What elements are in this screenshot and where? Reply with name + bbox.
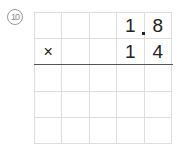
answer-cell[interactable] [35,65,62,91]
grid-cell[interactable] [90,13,117,39]
answer-cell[interactable] [62,65,89,91]
multiplication-grid: 1 8 × 1 4 [34,12,172,144]
answer-cell[interactable] [62,92,89,118]
decimal-point [142,32,145,35]
answer-cell[interactable] [90,92,117,118]
answer-cell[interactable] [145,65,172,91]
grid-cell[interactable] [35,13,62,39]
answer-cell[interactable] [117,65,144,91]
multiplicand-digit: 1 [117,13,144,39]
multiplier-digit: 1 [117,39,144,65]
grid-cell[interactable] [62,39,89,65]
multiply-sign: × [35,39,62,65]
grid-cell[interactable] [62,13,89,39]
answer-cell[interactable] [145,118,172,144]
answer-cell[interactable] [90,118,117,144]
multiplicand-digit: 8 [145,13,172,39]
answer-cell[interactable] [90,65,117,91]
sum-line [34,64,173,65]
answer-cell[interactable] [35,118,62,144]
answer-cell[interactable] [117,118,144,144]
answer-cell[interactable] [62,118,89,144]
problem-number: 10 [7,9,23,25]
grid-cell[interactable] [90,39,117,65]
answer-cell[interactable] [145,92,172,118]
answer-cell[interactable] [117,92,144,118]
answer-cell[interactable] [35,92,62,118]
multiplier-digit: 4 [145,39,172,65]
